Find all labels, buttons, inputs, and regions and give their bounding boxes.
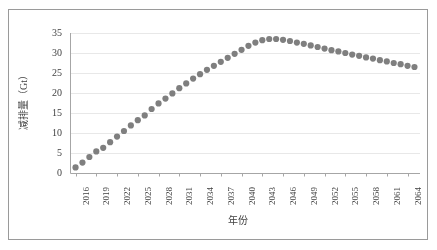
y-tick-label: 10 [40, 128, 62, 138]
x-tick-label: 2028 [164, 175, 175, 205]
x-tick-label: 2037 [226, 175, 237, 205]
x-tick-label: 2052 [330, 175, 341, 205]
y-tick-label: 30 [40, 48, 62, 58]
x-tick-label: 2040 [247, 175, 258, 205]
y-tick-label: 25 [40, 68, 62, 78]
x-axis-title: 年份 [168, 214, 308, 227]
x-tick-label: 2064 [413, 175, 424, 205]
x-tick-label: 2016 [81, 175, 92, 205]
y-tick-label: 20 [40, 88, 62, 98]
x-tick-label: 2034 [205, 175, 216, 205]
x-tick-label: 2019 [101, 175, 112, 205]
x-tick-label: 2022 [122, 175, 133, 205]
x-tick-label: 2025 [143, 175, 154, 205]
x-tick-label: 2043 [267, 175, 278, 205]
y-tick-label: 35 [40, 28, 62, 38]
y-tick-label: 15 [40, 108, 62, 118]
emissions-reduction-chart [0, 0, 437, 250]
y-tick-label: 5 [40, 148, 62, 158]
y-tick-label: 0 [40, 168, 62, 178]
y-axis-title: 减排量（Gt） [16, 40, 32, 160]
x-tick-label: 2046 [288, 175, 299, 205]
x-tick-label: 2049 [309, 175, 320, 205]
x-tick-label: 2055 [350, 175, 361, 205]
x-tick-label: 2061 [392, 175, 403, 205]
y-axis-title-text: 减排量（Gt） [17, 40, 31, 160]
x-tick-label: 2058 [371, 175, 382, 205]
x-tick-label: 2031 [184, 175, 195, 205]
